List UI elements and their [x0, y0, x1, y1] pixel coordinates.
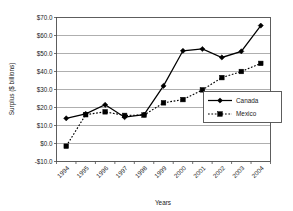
- y-axis-tick-label: $30.0: [37, 86, 53, 93]
- data-point-marker: [258, 61, 263, 66]
- x-axis-tick-label: 1996: [94, 164, 109, 179]
- data-point-marker: [220, 75, 225, 80]
- y-axis-tick-label: $20.0: [37, 104, 53, 111]
- data-point-marker: [239, 69, 244, 74]
- x-axis-tick-label: 1997: [114, 164, 129, 179]
- x-axis-tick-label: 2004: [250, 164, 265, 179]
- x-axis-tick-label: 1995: [75, 164, 90, 179]
- x-axis-tick-label: 2000: [172, 164, 187, 179]
- legend-label: Mexico: [236, 110, 257, 117]
- y-axis-tick-label: $40.0: [37, 68, 53, 75]
- data-point-marker: [64, 144, 69, 149]
- x-axis-tick-label: 1994: [56, 164, 71, 179]
- legend-marker: [218, 112, 223, 117]
- data-point-marker: [64, 116, 69, 121]
- x-axis-tick-label: 1999: [153, 164, 168, 179]
- x-axis-tick-label: 2001: [192, 164, 207, 179]
- series-plots: [64, 23, 264, 149]
- legend-label: Canada: [236, 97, 259, 104]
- y-axis-tick-label: $10.0: [37, 122, 53, 129]
- y-axis-tick-labels: $70.0$60.0$50.0$40.0$30.0$20.0$10.0$0.0-…: [35, 14, 57, 165]
- data-point-marker: [200, 46, 205, 51]
- x-axis-tick-label: 2002: [211, 164, 226, 179]
- data-point-marker: [219, 55, 224, 60]
- data-point-marker: [122, 113, 127, 118]
- data-point-marker: [180, 48, 185, 53]
- x-axis-tick-label: 2003: [231, 164, 246, 179]
- y-axis-tick-label: -$10.0: [35, 158, 53, 165]
- data-point-marker: [142, 113, 147, 118]
- y-axis-tick-label: $60.0: [37, 32, 53, 39]
- x-axis-tick-labels: 1994199519961997199819992000200120022003…: [56, 164, 266, 179]
- data-point-marker: [161, 101, 166, 106]
- data-point-marker: [83, 112, 88, 117]
- data-point-marker: [103, 110, 108, 115]
- x-axis-tick-label: 1998: [133, 164, 148, 179]
- y-axis-tick-label: $0.0: [40, 140, 53, 147]
- chart-legend: CanadaMexico: [204, 92, 282, 123]
- chart-container: $70.0$60.0$50.0$40.0$30.0$20.0$10.0$0.0-…: [0, 0, 293, 211]
- line-chart: $70.0$60.0$50.0$40.0$30.0$20.0$10.0$0.0-…: [0, 0, 293, 211]
- x-axis-title: Years: [155, 199, 171, 206]
- y-axis-tick-label: $50.0: [37, 50, 53, 57]
- y-axis-title: Surplus ($ billions): [8, 63, 16, 116]
- y-axis-tick-label: $70.0: [37, 14, 53, 21]
- data-point-marker: [181, 97, 186, 102]
